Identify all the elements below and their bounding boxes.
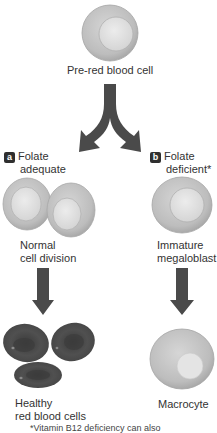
healthy-red-blood-cells-icon: [0, 318, 99, 388]
down-arrow-right-icon: [170, 268, 194, 315]
condition-b-line1: Folate: [164, 150, 195, 162]
macrocyte-icon: [150, 329, 214, 389]
middle-a-line1: Normal: [20, 239, 55, 251]
normal-cell-division-label: Normal cell division: [20, 239, 76, 265]
split-arrow-icon: [79, 84, 141, 152]
down-arrow-left-icon: [32, 268, 54, 315]
pre-red-blood-cell-icon: [82, 5, 138, 61]
middle-a-line2: cell division: [20, 252, 76, 264]
middle-b-line2: megaloblast: [157, 252, 216, 264]
macrocyte-label: Macrocyte: [158, 398, 209, 411]
condition-b-line2: deficient*: [150, 163, 211, 175]
footnote: *Vitamin B12 deficiency can also: [30, 423, 160, 433]
result-a-line1: Healthy: [15, 397, 52, 409]
pre-red-blood-cell-label: Pre-red blood cell: [67, 64, 153, 77]
condition-b-label: bFolate deficient*: [150, 150, 211, 176]
condition-a-label: aFolate adequate: [4, 150, 66, 176]
condition-a-line2: adequate: [4, 163, 66, 175]
middle-b-line1: Immature: [157, 239, 203, 251]
condition-a-line1: Folate: [18, 150, 49, 162]
healthy-red-blood-cells-label: Healthy red blood cells: [15, 397, 86, 423]
result-a-line2: red blood cells: [15, 410, 86, 422]
badge-b: b: [150, 152, 161, 163]
immature-megaloblast-label: Immature megaloblast: [157, 239, 216, 265]
badge-a: a: [4, 152, 15, 163]
megaloblast-icon: [152, 177, 212, 233]
normal-cell-division-icon: [3, 178, 95, 237]
